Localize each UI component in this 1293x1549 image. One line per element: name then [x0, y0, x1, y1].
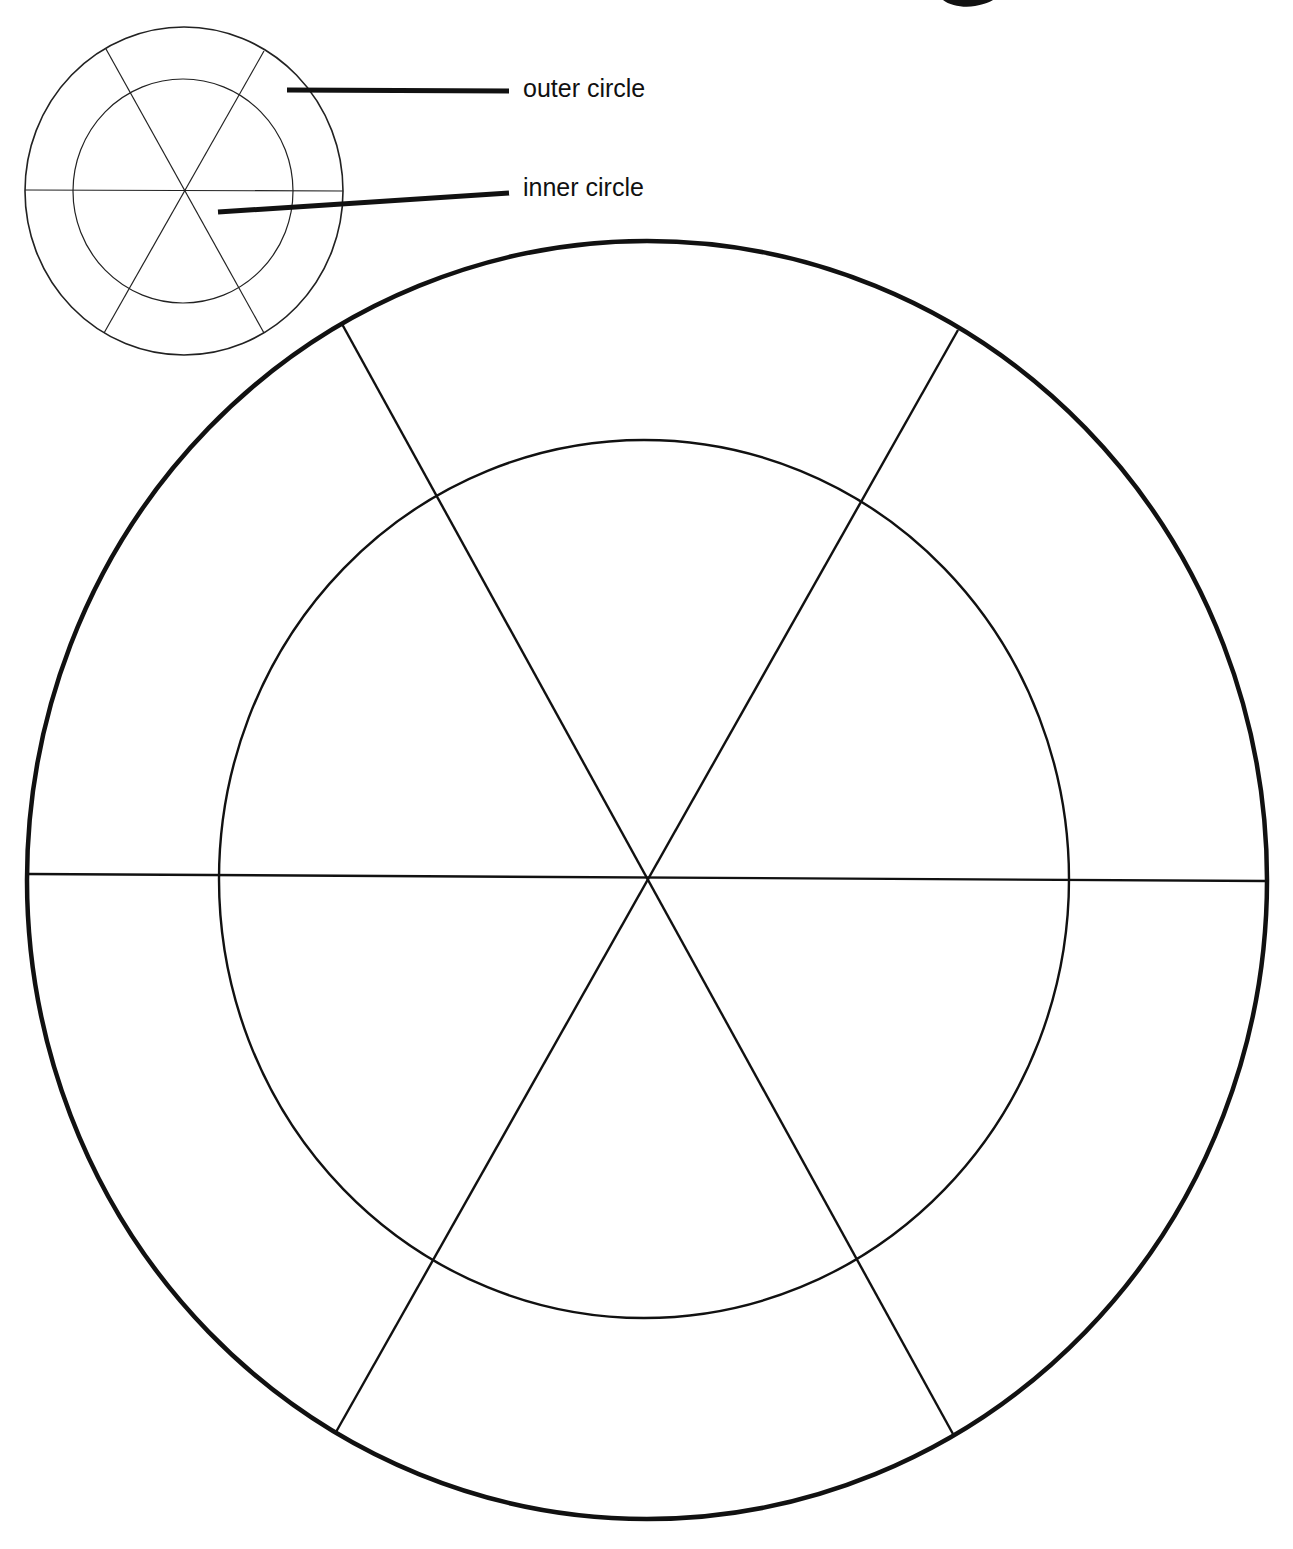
- inner-circle-label: inner circle: [523, 175, 644, 200]
- outer-circle-leader-line: [287, 90, 509, 91]
- color-wheel-worksheet: outer circle inner circle: [0, 0, 1293, 1549]
- heading-glyph-fragment: [943, 0, 993, 7]
- wheel-diagram-canvas: [0, 0, 1293, 1549]
- legend-diagram: [25, 27, 343, 355]
- outer-circle-label: outer circle: [523, 76, 645, 101]
- inner-circle-leader-line: [218, 193, 509, 212]
- wheel-segments: [28, 243, 1266, 1518]
